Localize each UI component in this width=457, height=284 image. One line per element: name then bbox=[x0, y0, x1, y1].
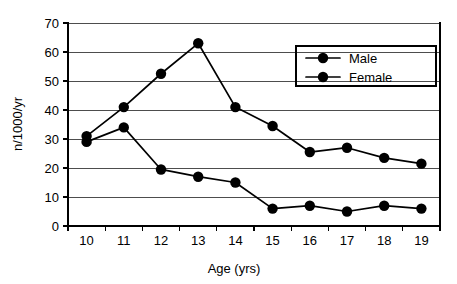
data-point-male bbox=[379, 153, 389, 163]
data-point-female bbox=[193, 172, 203, 182]
y-tick-label: 60 bbox=[45, 45, 59, 60]
data-point-male bbox=[342, 143, 352, 153]
legend-marker-female bbox=[318, 72, 328, 82]
x-tick-label: 10 bbox=[79, 233, 93, 248]
data-point-female bbox=[156, 164, 166, 174]
chart-container: 010203040506070 10111213141516171819 Mal… bbox=[0, 0, 457, 284]
x-tick-label: 15 bbox=[265, 233, 279, 248]
data-point-female bbox=[305, 201, 315, 211]
legend-marker-male bbox=[318, 53, 328, 63]
y-tick-label: 0 bbox=[52, 219, 59, 234]
data-point-male bbox=[156, 69, 166, 79]
x-axis-title: Age (yrs) bbox=[208, 261, 261, 276]
data-point-male bbox=[267, 121, 277, 131]
data-point-male bbox=[416, 158, 426, 168]
data-point-female bbox=[267, 203, 277, 213]
data-point-female bbox=[416, 203, 426, 213]
y-axis-tick-labels: 010203040506070 bbox=[45, 16, 59, 234]
x-tick-label: 17 bbox=[340, 233, 354, 248]
series-lines bbox=[87, 43, 422, 211]
y-tick-label: 10 bbox=[45, 190, 59, 205]
data-point-female bbox=[119, 122, 129, 132]
legend-label-male: Male bbox=[349, 51, 377, 66]
y-tick-label: 50 bbox=[45, 74, 59, 89]
y-tick-label: 20 bbox=[45, 161, 59, 176]
data-point-female bbox=[230, 177, 240, 187]
data-point-female bbox=[379, 201, 389, 211]
y-axis-title: n/1000/yr bbox=[10, 96, 25, 151]
data-point-female bbox=[342, 206, 352, 216]
line-chart: 010203040506070 10111213141516171819 Mal… bbox=[0, 0, 457, 284]
data-point-male bbox=[193, 38, 203, 48]
data-point-male bbox=[119, 102, 129, 112]
legend-label-female: Female bbox=[349, 70, 392, 85]
x-tick-label: 11 bbox=[117, 233, 131, 248]
data-point-female bbox=[81, 137, 91, 147]
x-tick-label: 13 bbox=[191, 233, 205, 248]
x-tick-label: 14 bbox=[228, 233, 242, 248]
y-tick-label: 40 bbox=[45, 103, 59, 118]
series-line-female bbox=[87, 127, 422, 211]
x-tick-label: 16 bbox=[303, 233, 317, 248]
x-axis-tick-labels: 10111213141516171819 bbox=[79, 233, 428, 248]
data-point-male bbox=[305, 147, 315, 157]
y-tick-label: 70 bbox=[45, 16, 59, 31]
data-point-male bbox=[230, 102, 240, 112]
y-tick-label: 30 bbox=[45, 132, 59, 147]
x-tick-label: 18 bbox=[377, 233, 391, 248]
x-tick-label: 19 bbox=[414, 233, 428, 248]
x-tick-label: 12 bbox=[154, 233, 168, 248]
